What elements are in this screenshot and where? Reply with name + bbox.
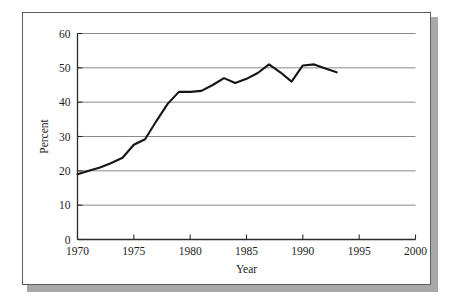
figure-root: 0102030405060 19701975198019851990199520…	[0, 0, 452, 305]
y-tick-label-20: 20	[59, 165, 71, 177]
x-tick-label-1990: 1990	[291, 245, 314, 257]
y-axis-title: Percent	[38, 118, 50, 153]
y-tick-label-60: 60	[59, 28, 71, 40]
x-tick-label-1985: 1985	[235, 245, 258, 257]
y-tick-label-40: 40	[59, 96, 71, 108]
gridlines-group	[78, 34, 416, 206]
y-tick-label-10: 10	[59, 199, 71, 211]
y-tick-label-30: 30	[59, 131, 71, 143]
x-tick-label-1970: 1970	[66, 245, 89, 257]
x-axis-title: Year	[236, 263, 257, 275]
x-tick-label-1975: 1975	[122, 245, 145, 257]
y-tick-labels-group: 0102030405060	[59, 28, 71, 246]
line-chart: 0102030405060 19701975198019851990199520…	[0, 0, 452, 305]
y-tick-label-50: 50	[59, 62, 71, 74]
x-tick-label-1980: 1980	[179, 245, 202, 257]
data-series-line	[78, 64, 337, 174]
x-tick-labels-group: 1970197519801985199019952000	[66, 245, 427, 257]
x-tick-label-1995: 1995	[348, 245, 371, 257]
x-tick-label-2000: 2000	[404, 245, 427, 257]
